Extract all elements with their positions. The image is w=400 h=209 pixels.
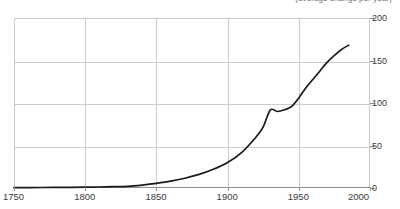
x-tick-label: 1750 xyxy=(3,192,24,202)
x-tick-label: 1950 xyxy=(288,192,309,202)
x-tick-label: 1900 xyxy=(217,192,238,202)
y-tick-label: 200 xyxy=(372,14,398,23)
x-tick-label: 1850 xyxy=(145,192,166,202)
series-line-value xyxy=(14,45,349,187)
y-tick-label: 100 xyxy=(372,99,398,108)
y-tick-label: 50 xyxy=(372,142,398,151)
series-layer xyxy=(0,0,400,209)
line-chart: (average change per year) 200150100500 1… xyxy=(0,0,400,209)
x-tick-label: 2000 xyxy=(348,192,369,202)
y-tick-label: 150 xyxy=(372,57,398,66)
x-tick-label: 1800 xyxy=(74,192,95,202)
x-tick-mark xyxy=(370,187,371,191)
y-tick-label: 0 xyxy=(372,184,398,193)
